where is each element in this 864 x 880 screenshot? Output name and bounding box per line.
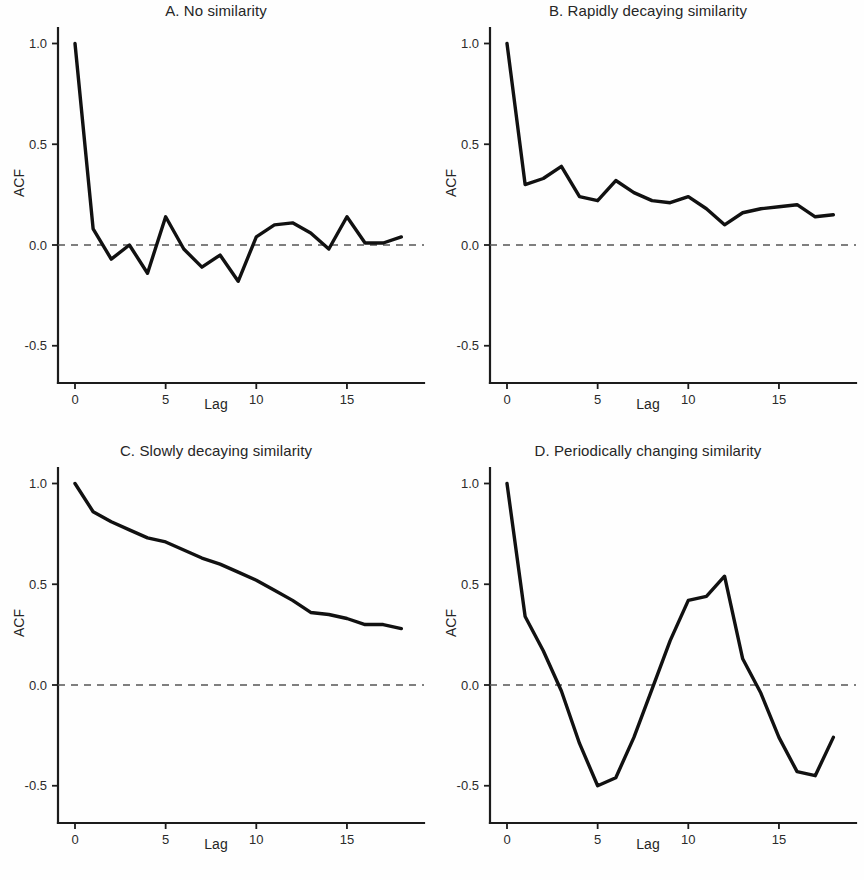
panel-a-xlabel: Lag bbox=[0, 396, 432, 412]
panel-a-plot: 1.00.50.0-0.5051015 bbox=[0, 0, 432, 440]
y-tick-label: 1.0 bbox=[29, 36, 47, 51]
acf-series-line bbox=[507, 44, 833, 225]
y-tick-label: 0.5 bbox=[461, 577, 479, 592]
panel-b-ylabel: ACF bbox=[443, 171, 459, 197]
panel-a-ylabel: ACF bbox=[11, 171, 27, 197]
panel-d-plot: 1.00.50.0-0.5051015 bbox=[432, 440, 864, 880]
y-tick-label: 0.0 bbox=[461, 678, 479, 693]
panel-b-xlabel: Lag bbox=[432, 396, 864, 412]
panel-a: A. No similarity 1.00.50.0-0.5051015 ACF… bbox=[0, 0, 432, 440]
y-tick-label: 1.0 bbox=[461, 36, 479, 51]
acf-series-line bbox=[75, 484, 401, 629]
y-tick-label: 0.0 bbox=[461, 238, 479, 253]
y-tick-label: -0.5 bbox=[25, 778, 47, 793]
y-tick-label: 1.0 bbox=[461, 476, 479, 491]
panel-c-ylabel: ACF bbox=[11, 611, 27, 637]
y-tick-label: 0.0 bbox=[29, 238, 47, 253]
panel-d-ylabel: ACF bbox=[443, 611, 459, 637]
y-tick-label: 0.5 bbox=[29, 137, 47, 152]
y-tick-label: -0.5 bbox=[457, 338, 479, 353]
y-tick-label: -0.5 bbox=[457, 778, 479, 793]
acf-figure: A. No similarity 1.00.50.0-0.5051015 ACF… bbox=[0, 0, 864, 880]
panel-b-plot: 1.00.50.0-0.5051015 bbox=[432, 0, 864, 440]
y-tick-label: -0.5 bbox=[25, 338, 47, 353]
panel-d-xlabel: Lag bbox=[432, 836, 864, 852]
y-tick-label: 1.0 bbox=[29, 476, 47, 491]
panel-c-plot: 1.00.50.0-0.5051015 bbox=[0, 440, 432, 880]
panel-d: D. Periodically changing similarity 1.00… bbox=[432, 440, 864, 880]
panel-c-xlabel: Lag bbox=[0, 836, 432, 852]
panel-b: B. Rapidly decaying similarity 1.00.50.0… bbox=[432, 0, 864, 440]
y-tick-label: 0.5 bbox=[29, 577, 47, 592]
acf-series-line bbox=[507, 484, 833, 786]
y-tick-label: 0.0 bbox=[29, 678, 47, 693]
y-tick-label: 0.5 bbox=[461, 137, 479, 152]
panel-c: C. Slowly decaying similarity 1.00.50.0-… bbox=[0, 440, 432, 880]
